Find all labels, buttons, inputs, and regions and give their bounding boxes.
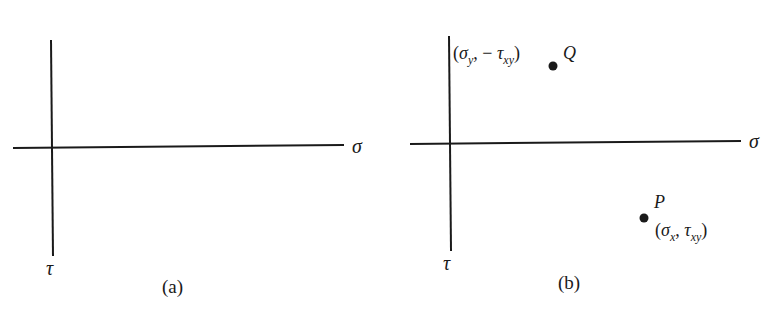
point-q: (σy, − τxy) Q: [453, 43, 576, 71]
panel-a: σ τ (a): [13, 40, 363, 298]
point-p-label: P: [653, 192, 665, 212]
panel-caption-b: (b): [558, 272, 580, 294]
point-q-coordinates: (σy, − τxy): [453, 43, 520, 67]
sigma-axis-b: [410, 141, 741, 144]
sigma-axis-a: [13, 145, 344, 148]
point-q-label: Q: [563, 43, 576, 63]
panel-b: σ τ (b) (σy, − τxy) Q P (σx, τxy): [410, 36, 760, 294]
point-p-coordinates: (σx, τxy): [655, 220, 707, 244]
sigma-axis-label-a: σ: [352, 135, 363, 157]
tau-axis-label-b: τ: [443, 252, 451, 274]
panel-caption-a: (a): [162, 276, 183, 298]
tau-axis-label-a: τ: [46, 257, 54, 279]
point-q-marker: [549, 62, 558, 71]
point-p: P (σx, τxy): [640, 192, 708, 244]
point-p-marker: [640, 214, 649, 223]
sigma-axis-label-b: σ: [749, 130, 760, 152]
mohr-circle-axes-figure: σ τ (a) σ τ (b) (σy, − τxy) Q P (σx, τxy…: [0, 0, 775, 328]
